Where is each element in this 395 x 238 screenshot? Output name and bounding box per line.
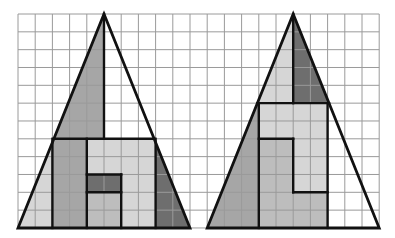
diagram-canvas <box>0 0 395 238</box>
